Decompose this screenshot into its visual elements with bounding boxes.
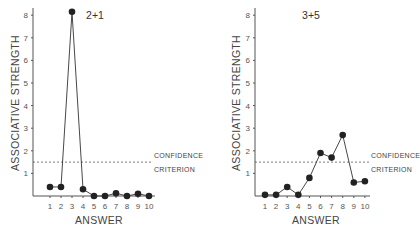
data-point-answer-7 xyxy=(328,154,335,161)
data-point-answer-2 xyxy=(273,192,280,199)
data-point-answer-9 xyxy=(351,179,358,186)
y-tick-label: 3 xyxy=(24,124,29,133)
criterion-label-line2: CRITERION xyxy=(154,166,195,173)
y-axis-title: ASSOCIATIVE STRENGTH xyxy=(230,35,242,171)
data-point-answer-3 xyxy=(69,9,76,16)
x-tick-label: 2 xyxy=(59,202,64,211)
criterion-label-line1: CONFIDENCE xyxy=(154,152,203,159)
x-tick-label: 5 xyxy=(92,202,97,211)
data-point-answer-8 xyxy=(124,193,131,200)
y-tick-label: 5 xyxy=(24,79,29,88)
data-point-answer-7 xyxy=(113,190,120,197)
x-tick-label: 9 xyxy=(352,202,357,211)
x-tick-label: 1 xyxy=(48,202,53,211)
y-tick-label: 1 xyxy=(246,169,251,178)
data-point-answer-2 xyxy=(58,184,65,191)
x-tick-label: 8 xyxy=(125,202,130,211)
data-point-answer-4 xyxy=(295,192,302,199)
data-point-answer-1 xyxy=(47,184,54,191)
chart-panel-3-plus-5: 3+5 ASSOCIATIVE STRENGTH ANSWER CONFIDEN… xyxy=(230,8,420,226)
data-point-answer-6 xyxy=(102,193,109,200)
y-tick-label: 8 xyxy=(246,11,251,20)
y-tick-label: 6 xyxy=(246,56,251,65)
y-tick-label: 2 xyxy=(246,147,251,156)
data-point-answer-10 xyxy=(362,178,369,185)
x-tick-label: 5 xyxy=(307,202,312,211)
y-axis-title: ASSOCIATIVE STRENGTH xyxy=(9,35,21,171)
x-tick-label: 8 xyxy=(340,202,345,211)
x-tick-label: 3 xyxy=(70,202,75,211)
data-point-answer-1 xyxy=(262,192,269,199)
data-point-answer-8 xyxy=(339,132,346,139)
x-axis-title: ANSWER xyxy=(75,214,123,226)
x-tick-label: 4 xyxy=(296,202,301,211)
x-tick-label: 10 xyxy=(360,202,369,211)
data-point-answer-10 xyxy=(146,193,153,200)
criterion-label-line2: CRITERION xyxy=(371,166,412,173)
x-tick-label: 1 xyxy=(263,202,268,211)
panel-title: 3+5 xyxy=(302,9,320,21)
x-tick-label: 7 xyxy=(114,202,119,211)
data-point-answer-5 xyxy=(306,175,313,182)
y-tick-label: 4 xyxy=(24,102,29,111)
y-tick-label: 7 xyxy=(246,34,251,43)
x-tick-label: 6 xyxy=(318,202,323,211)
x-tick-label: 2 xyxy=(274,202,279,211)
data-point-answer-5 xyxy=(91,193,98,200)
series-line xyxy=(50,12,149,196)
chart-panel-2-plus-1: 2+1 ASSOCIATIVE STRENGTH ANSWER CONFIDEN… xyxy=(9,8,203,226)
criterion-label-line1: CONFIDENCE xyxy=(371,152,420,159)
data-point-answer-9 xyxy=(135,190,142,197)
y-tick-label: 5 xyxy=(246,79,251,88)
data-point-answer-6 xyxy=(317,150,324,157)
data-point-answer-4 xyxy=(80,186,87,193)
y-tick-label: 4 xyxy=(246,102,251,111)
x-tick-label: 9 xyxy=(136,202,141,211)
series-line xyxy=(265,135,365,195)
x-tick-label: 4 xyxy=(81,202,86,211)
y-tick-label: 8 xyxy=(24,11,29,20)
x-axis-title: ANSWER xyxy=(292,214,340,226)
y-tick-label: 7 xyxy=(24,34,29,43)
x-tick-label: 3 xyxy=(285,202,290,211)
figure: 2+1 ASSOCIATIVE STRENGTH ANSWER CONFIDEN… xyxy=(0,0,420,231)
data-point-answer-3 xyxy=(284,184,291,191)
y-tick-label: 3 xyxy=(246,124,251,133)
x-tick-label: 7 xyxy=(329,202,334,211)
panel-title: 2+1 xyxy=(86,9,104,21)
x-tick-label: 6 xyxy=(103,202,108,211)
x-tick-label: 10 xyxy=(145,202,154,211)
y-tick-label: 6 xyxy=(24,56,29,65)
y-tick-label: 2 xyxy=(24,147,29,156)
y-tick-label: 1 xyxy=(24,169,29,178)
